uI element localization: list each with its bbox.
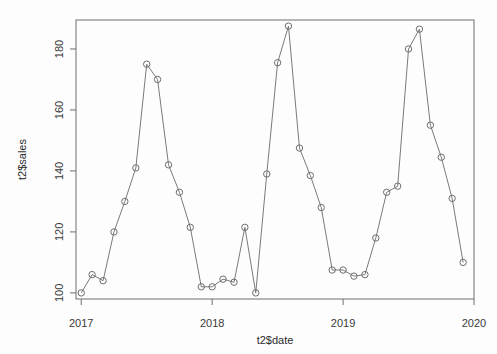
y-tick-label: 140	[53, 162, 65, 180]
r-plot-canvas: 1001201401601802017201820192020t2$datet2…	[0, 0, 497, 354]
y-tick-label: 120	[53, 223, 65, 241]
x-axis-title: t2$date	[257, 334, 294, 346]
x-tick-label: 2019	[331, 317, 355, 329]
series-line-1	[81, 26, 463, 293]
y-tick-label: 100	[53, 284, 65, 302]
line-chart: 1001201401601802017201820192020t2$datet2…	[0, 0, 497, 354]
x-tick-label: 2018	[200, 317, 224, 329]
y-tick-label: 180	[53, 40, 65, 58]
x-tick-label: 2017	[69, 317, 93, 329]
y-tick-label: 160	[53, 101, 65, 119]
x-tick-label: 2020	[462, 317, 486, 329]
y-axis-title: t2$sales	[16, 139, 28, 180]
